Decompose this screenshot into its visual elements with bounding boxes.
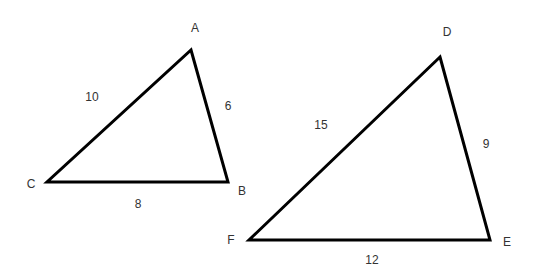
vertex-label-c: C (27, 177, 36, 191)
side-label-de: 9 (483, 137, 490, 151)
triangle-abc (47, 50, 228, 182)
side-label-ac: 10 (85, 90, 98, 104)
vertex-label-f: F (227, 233, 234, 247)
vertex-label-d: D (443, 25, 452, 39)
vertex-label-a: A (191, 21, 199, 35)
side-label-df: 15 (314, 118, 327, 132)
vertex-label-b: B (238, 184, 246, 198)
side-label-fe: 12 (365, 253, 378, 267)
triangle-def (249, 57, 490, 240)
vertex-label-e: E (503, 235, 511, 249)
diagram-canvas (0, 0, 535, 276)
side-label-cb: 8 (135, 197, 142, 211)
side-label-ab: 6 (225, 99, 232, 113)
